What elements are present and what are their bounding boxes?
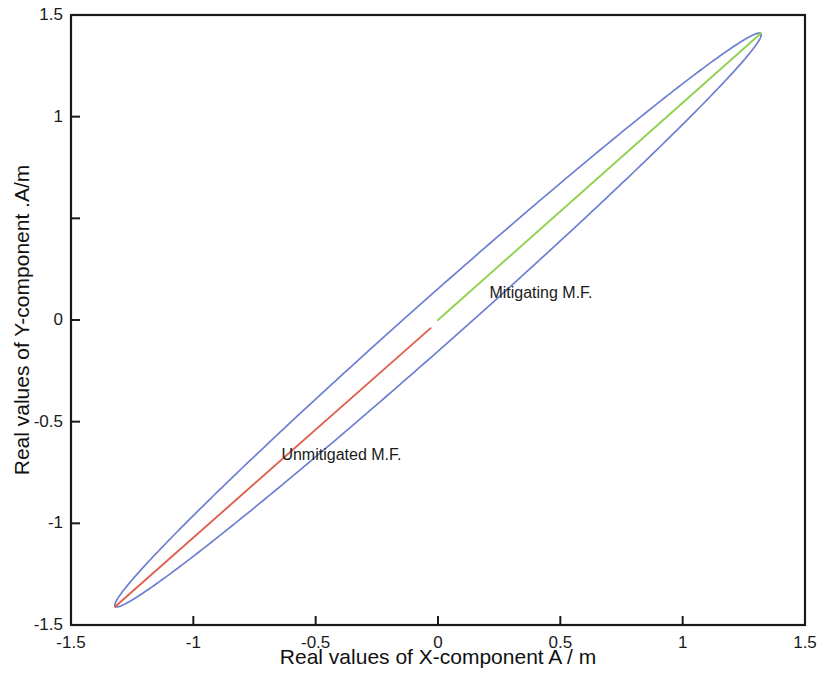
y-tick-label: -1 [48,513,63,533]
y-tick-label: 1.5 [39,5,63,25]
chart-figure: -1.5-1-0.500.511.5-1.5-1-0.5011.5 Real v… [0,0,823,675]
annotation-mitigating-mf: Mitigating M.F. [489,284,592,302]
x-tick-label: -1.5 [56,633,85,653]
x-axis-title: Real values of X-component A / m [280,645,596,669]
annotation-unmitigated-mf: Unmitigated M.F. [281,446,401,464]
y-tick-label: 1 [54,107,63,127]
y-tick-label: 0 [54,310,63,330]
y-axis-title: Real values of Y-component .A/m [10,165,34,476]
y-tick-label: -1.5 [34,615,63,635]
data-series [115,33,761,607]
x-tick-label: 1.5 [793,633,817,653]
plot-canvas [0,0,823,675]
x-tick-label: -1 [186,633,201,653]
x-tick-label: 1 [678,633,687,653]
y-tick-label: -0.5 [34,412,63,432]
